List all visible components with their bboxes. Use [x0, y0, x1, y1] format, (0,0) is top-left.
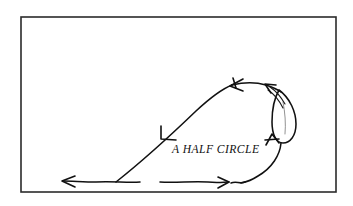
bottom-right-link-stroke	[231, 182, 245, 183]
arrowhead-group	[62, 78, 279, 188]
loop-inner-faint-stroke	[283, 102, 285, 134]
hand-drawn-diagram: A HALF CIRCLE	[0, 0, 353, 206]
figure-canvas: A HALF CIRCLE	[0, 0, 353, 206]
bottom-left-horizontal-stroke	[63, 181, 140, 182]
diagonal-rising-stroke	[116, 85, 232, 182]
figure-caption: A HALF CIRCLE	[171, 143, 259, 156]
arrowhead-loop-bottom-tick	[265, 139, 279, 140]
figure-frame-border	[21, 17, 336, 192]
narrow-loop-stroke	[272, 90, 296, 143]
bottom-middle-horizontal-stroke	[160, 182, 229, 183]
arrowhead-apex	[230, 79, 243, 91]
stroke-group	[63, 83, 296, 183]
